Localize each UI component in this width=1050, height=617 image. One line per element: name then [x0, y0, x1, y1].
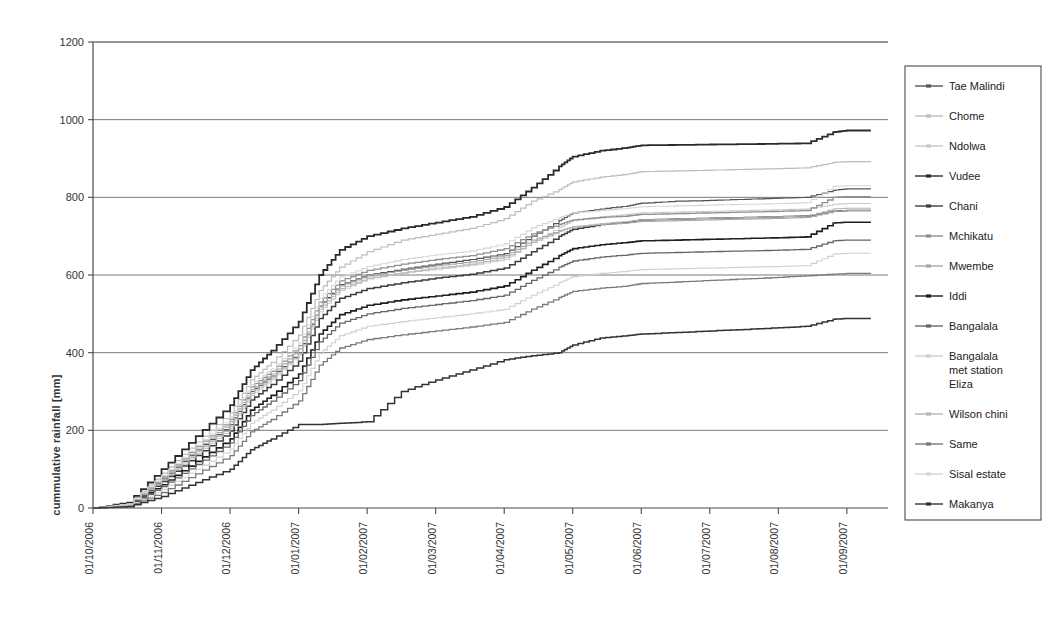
legend-label: Mwembe	[949, 260, 994, 272]
legend-marker	[926, 114, 931, 117]
legend-label: Ndolwa	[949, 140, 987, 152]
y-tick-label: 200	[66, 424, 84, 436]
legend-label: Makanya	[949, 498, 995, 510]
x-tick-label: 01/04/2007	[494, 522, 506, 575]
chart-legend[interactable]: Tae MalindiChomeNdolwaVudeeChaniMchikatu…	[905, 66, 1041, 520]
legend-label: Eliza	[949, 378, 974, 390]
legend-marker	[926, 324, 931, 327]
legend-marker	[926, 264, 931, 267]
x-tick-label: 01/03/2007	[426, 522, 438, 575]
legend-label: Bangalala	[949, 320, 999, 332]
legend-label: Tae Malindi	[949, 80, 1005, 92]
legend-label: Iddi	[949, 290, 967, 302]
legend-label: Same	[949, 438, 978, 450]
series-line	[93, 319, 871, 509]
x-tick-label: 01/07/2007	[700, 522, 712, 575]
y-tick-label: 600	[66, 269, 84, 281]
legend-label: met station	[949, 364, 1003, 376]
x-tick-label: 01/01/2007	[289, 522, 301, 575]
legend-label: Bangalala	[949, 350, 999, 362]
legend-label: Chani	[949, 200, 978, 212]
x-tick-label: 01/05/2007	[563, 522, 575, 575]
legend-label: Vudee	[949, 170, 980, 182]
legend-marker	[926, 84, 931, 87]
x-tick-label: 01/02/2007	[357, 522, 369, 575]
legend-marker	[926, 204, 931, 207]
legend-marker	[926, 472, 931, 475]
y-tick-label: 1200	[60, 36, 84, 48]
legend-marker	[926, 442, 931, 445]
legend-label: Chome	[949, 110, 984, 122]
x-tick-label: 01/06/2007	[631, 522, 643, 575]
legend-label: Mchikatu	[949, 230, 993, 242]
x-tick-label: 01/08/2007	[768, 522, 780, 575]
y-tick-label: 800	[66, 191, 84, 203]
gridlines	[93, 42, 888, 430]
legend-marker	[926, 294, 931, 297]
x-tick-label: 01/09/2007	[837, 522, 849, 575]
legend-marker	[926, 354, 931, 357]
legend-marker	[926, 412, 931, 415]
legend-marker	[926, 234, 931, 237]
x-tick-label: 01/10/2006	[83, 522, 95, 575]
y-axis-ticks: 020040060080010001200	[60, 36, 93, 514]
legend-marker	[926, 144, 931, 147]
legend-box	[905, 66, 1041, 520]
x-tick-label: 01/12/2006	[220, 522, 232, 575]
x-axis-ticks: 01/10/200601/11/200601/12/200601/01/2007…	[83, 508, 849, 575]
legend-marker	[926, 174, 931, 177]
y-tick-label: 0	[78, 502, 84, 514]
y-tick-label: 1000	[60, 114, 84, 126]
legend-label: Wilson chini	[949, 408, 1008, 420]
legend-label: Sisal estate	[949, 468, 1006, 480]
rainfall-line-chart: 020040060080010001200 01/10/200601/11/20…	[0, 0, 1050, 617]
series-line	[93, 273, 871, 508]
x-tick-label: 01/11/2006	[152, 522, 164, 574]
y-tick-label: 400	[66, 347, 84, 359]
series-lines	[93, 131, 871, 509]
legend-marker	[926, 502, 931, 505]
